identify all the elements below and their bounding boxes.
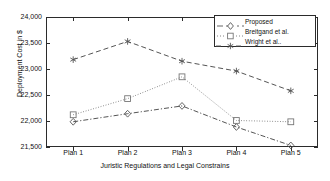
x-tick-mark <box>182 147 183 151</box>
legend-item-wright: Wright et al.. <box>215 37 315 47</box>
legend-label-wright: Wright et al.. <box>245 38 281 46</box>
legend-sample-square-dotted <box>215 27 245 37</box>
y-tick-mark <box>46 121 50 122</box>
x-tick-mark <box>291 147 292 151</box>
x-tick-mark-top <box>73 17 74 21</box>
y-tick-mark <box>46 147 50 148</box>
y-tick-mark-right <box>314 69 318 70</box>
x-tick-mark-top <box>128 17 129 21</box>
y-tick-label: 22,500 <box>8 91 42 98</box>
chart-legend: Proposed Breitgand et al. Wright et al.. <box>214 15 316 47</box>
y-tick-mark-right <box>314 147 318 148</box>
legend-item-breitgand: Breitgand et al. <box>215 27 315 37</box>
y-tick-label: 23,000 <box>8 65 42 72</box>
y-tick-mark-right <box>314 121 318 122</box>
y-tick-label: 23,500 <box>8 39 42 46</box>
legend-sample-diamond-dashdot <box>215 17 245 27</box>
x-tick-mark <box>236 147 237 151</box>
y-tick-mark <box>46 95 50 96</box>
legend-label-breitgand: Breitgand et al. <box>245 28 289 36</box>
legend-item-proposed: Proposed <box>215 17 315 27</box>
x-tick-mark <box>128 147 129 151</box>
legend-label-proposed: Proposed <box>245 18 273 26</box>
y-tick-label: 24,000 <box>8 13 42 20</box>
x-tick-mark-top <box>182 17 183 21</box>
x-axis-title: Juristic Regulations and Legal Constrain… <box>0 162 330 169</box>
y-tick-label: 21,500 <box>8 143 42 150</box>
chart-figure: 21,50022,00022,50023,00023,50024,000 Pla… <box>0 0 330 181</box>
y-tick-mark <box>46 69 50 70</box>
y-axis-title: Deployment Cost in $ <box>16 9 23 119</box>
y-tick-mark <box>46 17 50 18</box>
y-tick-mark-right <box>314 95 318 96</box>
y-tick-mark <box>46 43 50 44</box>
x-tick-mark <box>73 147 74 151</box>
y-tick-label: 22,000 <box>8 117 42 124</box>
legend-sample-asterisk-dashed <box>215 37 245 47</box>
